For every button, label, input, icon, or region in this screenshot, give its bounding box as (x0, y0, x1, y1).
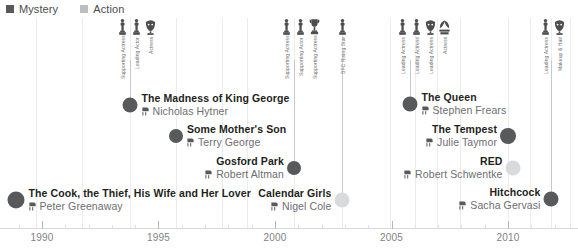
square-swatch-icon (80, 5, 88, 13)
award-laurel-icon (437, 18, 452, 35)
film-entry[interactable]: The QueenStephen Frears (0, 89, 578, 119)
award-mask-icon (143, 18, 158, 35)
axis-tick-minor (89, 225, 90, 229)
square-swatch-icon (6, 5, 14, 13)
axis-tick-label: 2005 (380, 232, 403, 243)
axis-tick-minor (345, 225, 346, 229)
director-chair-icon (459, 201, 466, 210)
legend-item-action[interactable]: Action (80, 4, 124, 15)
award-marker[interactable]: Supporting Actor (293, 18, 308, 79)
award-marker[interactable]: Leading Actress (409, 18, 424, 79)
axis-tick-minor (205, 225, 206, 229)
oscar-statuette-icon (129, 18, 144, 35)
axis-tick-minor (135, 225, 136, 229)
award-label: Makeup & Hair (557, 37, 563, 79)
axis-tick-minor (555, 225, 556, 229)
film-title: RED (404, 155, 502, 168)
legend-label: Action (93, 4, 124, 15)
award-mask-icon (423, 18, 438, 35)
film-title: The Tempest (426, 123, 497, 136)
award-label: BFC Rising Star (340, 37, 346, 79)
axis-tick-minor (112, 225, 113, 229)
axis-tick-label: 1995 (147, 232, 170, 243)
axis-tick-minor (298, 225, 299, 229)
axis-tick-minor (368, 225, 369, 229)
award-marker[interactable]: Actress (143, 18, 158, 79)
award-label: Supporting Actress (312, 37, 318, 79)
film-director-row: Julie Taymor (426, 136, 497, 149)
axis-tick-minor (322, 225, 323, 229)
oscar-statuette-icon (538, 18, 553, 35)
film-title: The Queen (422, 91, 507, 104)
axis-tick-label: 1990 (30, 232, 53, 243)
legend: MysteryAction (6, 2, 124, 16)
award-label: Supporting Actress (284, 37, 290, 79)
film-label: HitchcockSacha Gervasi (459, 186, 540, 212)
film-director-row: Stephen Frears (422, 104, 507, 117)
oscar-statuette-icon (115, 18, 130, 35)
award-trophy-icon (307, 18, 322, 35)
axis-tick-major (392, 221, 393, 229)
award-marker[interactable]: Leading Actress (423, 18, 438, 79)
film-director-row: Sacha Gervasi (459, 199, 540, 212)
axis-tick-minor (485, 225, 486, 229)
director-chair-icon (422, 106, 429, 115)
axis-tick-minor (531, 225, 532, 229)
award-mask-icon (552, 18, 567, 35)
axis-tick-minor (65, 225, 66, 229)
award-label: Leading Actress (400, 37, 406, 79)
director-chair-icon (426, 138, 433, 147)
film-genre-dot[interactable] (403, 97, 418, 112)
axis-tick-major (275, 221, 276, 229)
award-label: Leading Actress (414, 37, 420, 79)
legend-label: Mystery (19, 4, 58, 15)
award-marker[interactable]: Leading Actress (395, 18, 410, 79)
film-title: Hitchcock (459, 186, 540, 199)
award-label: Leading Actor (134, 37, 140, 79)
film-genre-dot[interactable] (544, 192, 559, 207)
award-label: Actress (442, 37, 448, 79)
axis-line (0, 228, 578, 229)
film-genre-dot[interactable] (506, 161, 521, 176)
film-director-name: Stephen Frears (433, 104, 507, 117)
award-marker[interactable]: Leading Actress (538, 18, 553, 79)
axis-tick-major (158, 221, 159, 229)
oscar-statuette-icon (409, 18, 424, 35)
film-genre-dot[interactable] (500, 128, 516, 144)
film-label: REDRobert Schwentke (404, 155, 502, 181)
oscar-statuette-icon (293, 18, 308, 35)
film-label: The TempestJulie Taymor (426, 123, 497, 149)
award-marker[interactable]: Leading Actor (129, 18, 144, 79)
film-director-name: Julie Taymor (437, 136, 497, 149)
oscar-statuette-icon (395, 18, 410, 35)
axis-tick-minor (252, 225, 253, 229)
axis-tick-minor (228, 225, 229, 229)
award-marker[interactable]: Makeup & Hair (552, 18, 567, 79)
award-marker[interactable]: Supporting Actress (307, 18, 322, 79)
oscar-statuette-icon (335, 18, 350, 35)
award-label: Leading Actress (428, 37, 434, 79)
award-marker[interactable]: Actress (437, 18, 452, 79)
director-chair-icon (404, 170, 411, 179)
axis-tick-minor (19, 225, 20, 229)
film-entry[interactable]: The TempestJulie Taymor (0, 121, 578, 151)
timeline-chart: MysteryAction Supporting ActressLeading … (0, 0, 578, 250)
oscar-statuette-icon (279, 18, 294, 35)
axis-tick-minor (461, 225, 462, 229)
award-marker[interactable]: Supporting Actress (279, 18, 294, 79)
award-label: Supporting Actor (298, 37, 304, 79)
axis-tick-major (42, 221, 43, 229)
award-marker[interactable]: BFC Rising Star (335, 18, 350, 79)
axis-tick-minor (182, 225, 183, 229)
film-director-name: Robert Schwentke (415, 168, 502, 181)
legend-item-mystery[interactable]: Mystery (6, 4, 58, 15)
award-label: Actress (148, 37, 154, 79)
film-director-name: Sacha Gervasi (470, 199, 540, 212)
award-marker[interactable]: Supporting Actress (115, 18, 130, 79)
axis-tick-major (508, 221, 509, 229)
axis-tick-minor (438, 225, 439, 229)
film-entry[interactable]: HitchcockSacha Gervasi (0, 184, 578, 214)
film-entry[interactable]: REDRobert Schwentke (0, 153, 578, 183)
axis-tick-label: 2000 (263, 232, 286, 243)
award-label: Supporting Actress (120, 37, 126, 79)
